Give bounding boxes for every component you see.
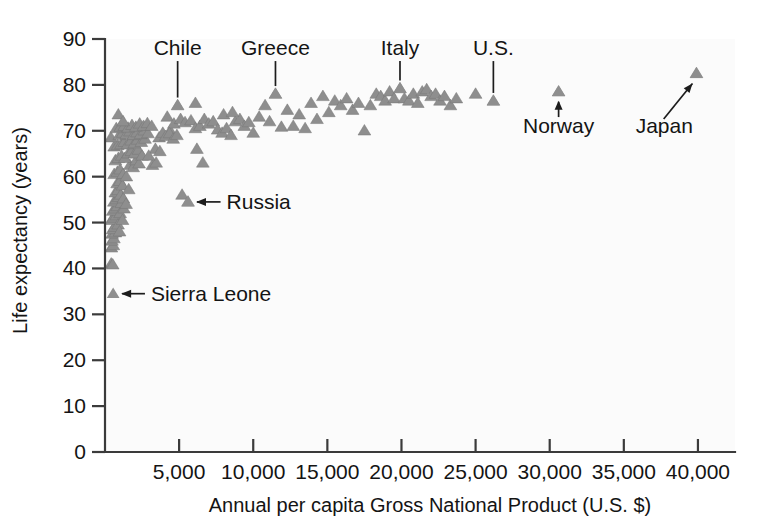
x-tick-label: 20,000 [369,460,433,483]
y-tick-label: 60 [63,165,86,188]
annotation-label: Italy [381,36,420,59]
annotation-label: Chile [154,36,202,59]
x-tick-label: 40,000 [666,460,730,483]
y-tick-label: 70 [63,119,86,142]
scatter-plot-svg: ChileGreeceItalyU.S.NorwayJapanRussiaSie… [0,0,757,530]
annotation-label: Japan [636,114,693,137]
y-tick-label: 30 [63,302,86,325]
x-axis-title: Annual per capita Gross National Product… [209,494,651,516]
chart-figure: ChileGreeceItalyU.S.NorwayJapanRussiaSie… [0,0,757,530]
y-tick-label: 20 [63,348,86,371]
x-tick-label: 5,000 [153,460,206,483]
y-tick-label: 40 [63,256,86,279]
annotation-label: U.S. [473,36,514,59]
x-tick-label: 10,000 [221,460,285,483]
x-tick-label: 25,000 [443,460,507,483]
annotation-label: Sierra Leone [151,282,271,305]
annotation-label: Greece [241,36,310,59]
y-tick-label: 80 [63,73,86,96]
x-tick-label: 35,000 [592,460,656,483]
annotation-label: Norway [523,114,595,137]
annotation-label: Russia [227,190,292,213]
x-tick-label: 15,000 [295,460,359,483]
y-tick-label: 50 [63,211,86,234]
y-tick-label: 10 [63,394,86,417]
y-tick-label: 90 [63,27,86,50]
y-axis-title: Life expectancy (years) [9,127,31,334]
y-tick-label: 0 [74,440,86,463]
x-tick-label: 30,000 [518,460,582,483]
